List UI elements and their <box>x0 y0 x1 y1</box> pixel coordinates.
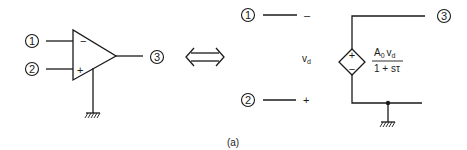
inverting-sign: − <box>80 35 86 47</box>
terminal-2-sign: + <box>303 94 309 106</box>
source-minus-sign: − <box>349 63 355 75</box>
node-3-label: 3 <box>154 51 160 63</box>
ground-icon <box>85 113 100 118</box>
gain-denominator: 1 + sτ <box>374 63 400 74</box>
eq-node-2-label: 2 <box>245 94 251 106</box>
opamp-symbol: 1 2 − + 3 <box>26 30 164 118</box>
eq-node-3-marker: 3 <box>438 10 451 23</box>
node-1-label: 1 <box>29 35 35 47</box>
equivalent-circuit: 1 – vd 2 + 3 + − A0vd 1 + sτ <box>242 9 451 128</box>
gain-expression: A0vd 1 + sτ <box>372 47 403 74</box>
figure-caption: (a) <box>227 137 239 148</box>
eq-node-1-label: 1 <box>245 9 251 21</box>
vd-label: vd <box>302 53 311 65</box>
output-wire-bottom <box>352 75 422 103</box>
gain-numerator: A0vd <box>374 47 396 59</box>
node-3-marker: 3 <box>151 51 164 64</box>
eq-ground-icon <box>380 122 395 127</box>
node-2-label: 2 <box>29 63 35 75</box>
eq-node-1-marker: 1 <box>242 9 255 22</box>
source-plus-sign: + <box>349 49 355 61</box>
terminal-1-sign: – <box>304 9 311 21</box>
eq-node-3-label: 3 <box>441 10 447 22</box>
double-arrow-icon <box>186 48 224 66</box>
eq-node-2-marker: 2 <box>242 94 255 107</box>
output-wire-top <box>352 16 425 49</box>
noninverting-sign: + <box>77 64 83 76</box>
node-2-marker: 2 <box>26 63 39 76</box>
opamp-equivalence-diagram: 1 2 − + 3 <box>0 0 467 150</box>
node-1-marker: 1 <box>26 35 39 48</box>
